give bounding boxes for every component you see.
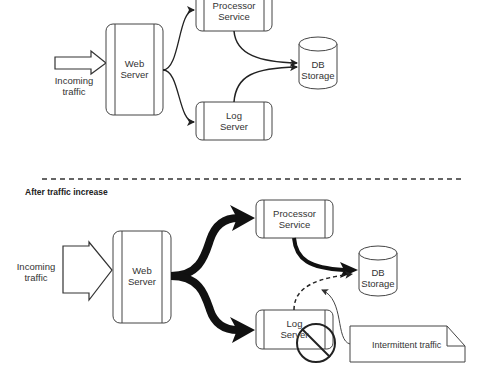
web-line1: Web [122, 265, 162, 276]
processor-to-db-connector [234, 31, 297, 63]
heavy-processor-to-db-connector [294, 238, 344, 270]
heavy-web-to-log-connector [171, 276, 238, 330]
incoming-traffic-arrow-large [63, 242, 112, 300]
heavy-web-to-processor-connector [171, 218, 238, 276]
db-line2: Storage [359, 278, 397, 289]
log-to-db-connector [234, 67, 297, 102]
incoming-line1: Incoming [12, 261, 60, 272]
incoming-traffic-label: Incoming traffic [48, 75, 100, 97]
processor-line1: Processor [204, 0, 264, 11]
db-line2: Storage [299, 70, 337, 81]
web-server-label: Web Server [115, 58, 154, 80]
db-storage-label: DB Storage [299, 59, 337, 81]
intermittent-log-to-db-connector [294, 274, 352, 310]
web-server-label-after: Web Server [122, 265, 162, 287]
web-line1: Web [115, 58, 154, 69]
log-line1: Log [204, 110, 264, 121]
processor-line1: Processor [264, 208, 325, 219]
processor-service-label: Processor Service [204, 0, 264, 22]
processor-line2: Service [264, 219, 325, 230]
processor-line2: Service [204, 11, 264, 22]
db-storage-label-after: DB Storage [359, 267, 397, 289]
log-line2: Server [264, 329, 325, 340]
before-section [55, 0, 337, 140]
web-line2: Server [115, 69, 154, 80]
incoming-line1: Incoming [48, 75, 100, 86]
incoming-line2: traffic [12, 272, 60, 283]
log-server-label: Log Server [204, 110, 264, 132]
incoming-traffic-label-after: Incoming traffic [12, 261, 60, 283]
intermittent-traffic-label: Intermittent traffic [372, 340, 472, 351]
log-line1: Log [264, 318, 325, 329]
db-line1: DB [359, 267, 397, 278]
incoming-traffic-arrow [55, 51, 106, 74]
processor-service-label-after: Processor Service [264, 208, 325, 230]
web-line2: Server [122, 276, 162, 287]
web-to-processor-connector [163, 10, 194, 70]
incoming-line2: traffic [48, 86, 100, 97]
log-server-label-after: Log Server [264, 318, 325, 340]
db-line1: DB [299, 59, 337, 70]
log-line2: Server [204, 121, 264, 132]
after-section-title: After traffic increase [25, 187, 108, 197]
web-to-log-connector [163, 70, 194, 122]
